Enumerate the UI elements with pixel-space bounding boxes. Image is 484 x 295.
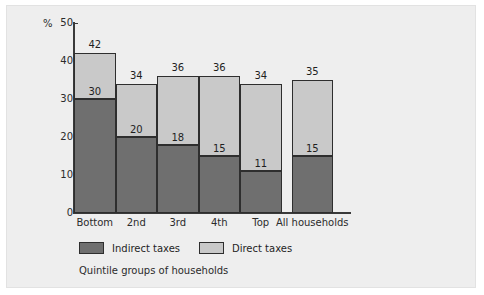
value-label-indirect-top: 11 bbox=[240, 158, 282, 169]
segment-indirect-taxes bbox=[74, 99, 116, 213]
legend-item-direct-taxes: Direct taxes bbox=[199, 242, 292, 254]
legend-item-indirect-taxes: Indirect taxes bbox=[79, 242, 180, 254]
chart-panel: % 01020304050 423034203618361534113515 B… bbox=[6, 5, 476, 288]
y-tick-label-20: 20 bbox=[51, 131, 73, 142]
value-label-indirect-all-households: 15 bbox=[292, 143, 334, 154]
value-label-total-all-households: 35 bbox=[292, 66, 334, 77]
segment-indirect-taxes bbox=[157, 145, 199, 213]
dark-gray-swatch bbox=[79, 242, 104, 254]
y-tick-mark-50 bbox=[73, 23, 78, 24]
y-tick-label-40: 40 bbox=[51, 55, 73, 66]
value-label-indirect-3rd: 18 bbox=[157, 132, 199, 143]
value-label-total-3rd: 36 bbox=[157, 62, 199, 73]
segment-indirect-taxes bbox=[199, 156, 241, 213]
value-label-total-4th: 36 bbox=[199, 62, 241, 73]
chart-legend: Indirect taxesDirect taxes bbox=[7, 242, 477, 258]
light-gray-swatch bbox=[199, 242, 224, 254]
value-label-total-top: 34 bbox=[240, 70, 282, 81]
bar-bottom bbox=[74, 53, 116, 213]
chart-plot-area: % 01020304050 423034203618361534113515 B… bbox=[7, 6, 477, 289]
value-label-total-bottom: 42 bbox=[74, 39, 116, 50]
chart-caption: Quintile groups of households bbox=[79, 265, 228, 276]
bar-3rd bbox=[157, 76, 199, 213]
y-tick-label-30: 30 bbox=[51, 93, 73, 104]
segment-indirect-taxes bbox=[240, 171, 282, 213]
bar-2nd bbox=[116, 84, 158, 213]
x-tick-label-all-households: All households bbox=[262, 217, 362, 228]
y-tick-label-10: 10 bbox=[51, 169, 73, 180]
value-label-total-2nd: 34 bbox=[116, 70, 158, 81]
value-label-indirect-2nd: 20 bbox=[116, 124, 158, 135]
legend-label: Direct taxes bbox=[232, 243, 292, 254]
legend-label: Indirect taxes bbox=[112, 243, 180, 254]
y-tick-label-50: 50 bbox=[51, 17, 73, 28]
segment-indirect-taxes bbox=[116, 137, 158, 213]
bar-top bbox=[240, 84, 282, 213]
value-label-indirect-4th: 15 bbox=[199, 143, 241, 154]
value-label-indirect-bottom: 30 bbox=[74, 86, 116, 97]
segment-indirect-taxes bbox=[292, 156, 334, 213]
y-tick-mark-0 bbox=[73, 213, 78, 214]
